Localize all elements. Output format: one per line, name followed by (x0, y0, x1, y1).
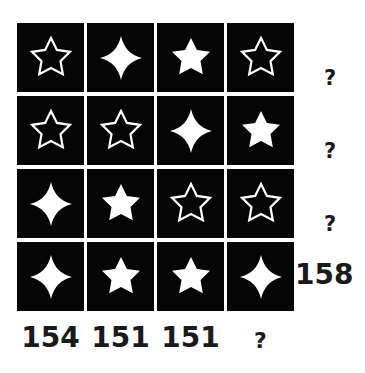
grid-cell-r3-c1 (17, 169, 84, 238)
star-filled-icon (166, 252, 216, 302)
diamond-icon (26, 252, 76, 302)
grid-cell-r2-c1 (17, 96, 84, 165)
star-filled-icon (96, 179, 146, 229)
grid-cell-r1-c4 (227, 23, 294, 92)
star-outline-icon (236, 179, 286, 229)
grid-cell-r4-c2 (87, 242, 154, 311)
col-sum-2: 151 (87, 322, 154, 354)
row-sum-1: ? (300, 66, 360, 90)
grid-cell-r4-c1 (17, 242, 84, 311)
diamond-icon (26, 179, 76, 229)
star-outline-icon (236, 33, 286, 83)
grid-cell-r2-c4 (227, 96, 294, 165)
grid-cell-r3-c3 (157, 169, 224, 238)
col-sum-1: 154 (17, 322, 84, 354)
diamond-icon (166, 106, 216, 156)
star-filled-icon (166, 33, 216, 83)
grid-cell-r4-c3 (157, 242, 224, 311)
star-filled-icon (96, 252, 146, 302)
diamond-icon (96, 33, 146, 83)
puzzle-grid (17, 23, 293, 311)
star-outline-icon (26, 106, 76, 156)
diamond-icon (236, 252, 286, 302)
grid-cell-r3-c2 (87, 169, 154, 238)
col-sum-4: ? (227, 325, 294, 357)
grid-cell-r2-c3 (157, 96, 224, 165)
row-sum-2: ? (300, 139, 360, 163)
grid-cell-r1-c1 (17, 23, 84, 92)
grid-cell-r3-c4 (227, 169, 294, 238)
grid-cell-r2-c2 (87, 96, 154, 165)
row-sum-4: 158 (295, 259, 355, 291)
grid-cell-r1-c3 (157, 23, 224, 92)
star-outline-icon (26, 33, 76, 83)
star-outline-icon (166, 179, 216, 229)
star-outline-icon (96, 106, 146, 156)
row-sum-3: ? (300, 212, 360, 236)
col-sum-3: 151 (157, 322, 224, 354)
star-filled-icon (236, 106, 286, 156)
grid-cell-r1-c2 (87, 23, 154, 92)
grid-cell-r4-c4 (227, 242, 294, 311)
